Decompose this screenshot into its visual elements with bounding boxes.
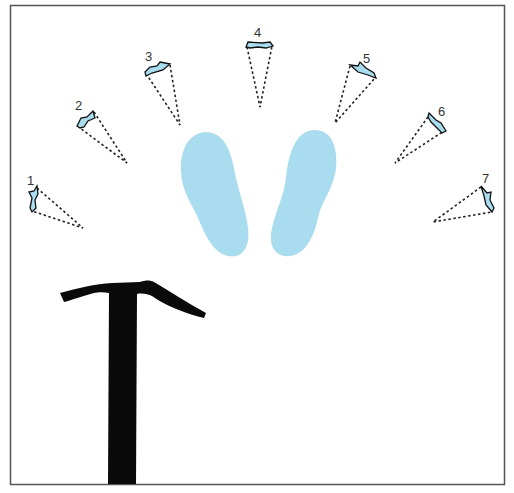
position-label-6: 6	[438, 104, 445, 119]
position-label-4: 4	[254, 25, 261, 40]
position-label-2: 2	[75, 98, 82, 113]
position-label-3: 3	[145, 49, 152, 64]
ice-axe-placement-diagram: 1 2 3 4 5 6 7	[0, 0, 514, 493]
position-label-1: 1	[27, 173, 34, 188]
pick-icon	[246, 42, 273, 48]
diagram-border	[11, 6, 505, 485]
position-label-5: 5	[363, 51, 370, 66]
position-label-7: 7	[482, 171, 489, 186]
